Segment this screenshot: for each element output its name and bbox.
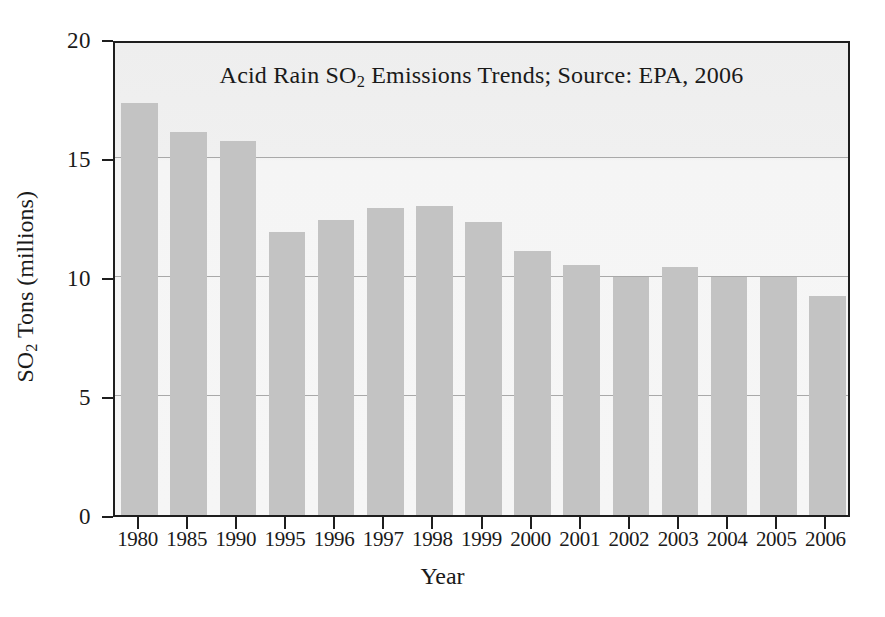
bar bbox=[662, 267, 699, 515]
bar bbox=[367, 208, 404, 515]
chart-title-subscript: 2 bbox=[357, 72, 365, 91]
y-tick-mark bbox=[102, 159, 113, 161]
x-axis-title: Year bbox=[0, 563, 885, 590]
chart-title-after: Emissions Trends; Source: EPA, 2006 bbox=[365, 62, 743, 88]
y-tick-label: 20 bbox=[13, 29, 91, 52]
bar bbox=[760, 277, 797, 515]
bar bbox=[613, 277, 650, 515]
y-axis-title-after: Tons (millions) bbox=[12, 191, 38, 344]
bar bbox=[416, 206, 453, 515]
bar bbox=[809, 296, 846, 515]
bar bbox=[514, 251, 551, 515]
bar bbox=[465, 222, 502, 515]
y-tick-mark bbox=[102, 397, 113, 399]
y-axis-title-before: SO bbox=[12, 352, 38, 383]
plot-area bbox=[113, 41, 850, 517]
bar bbox=[121, 103, 158, 515]
chart-title: Acid Rain SO2 Emissions Trends; Source: … bbox=[113, 62, 850, 92]
bar-series bbox=[115, 43, 848, 515]
bar bbox=[269, 232, 306, 515]
bar bbox=[220, 141, 257, 515]
y-tick-mark bbox=[102, 278, 113, 280]
bar bbox=[563, 265, 600, 515]
bar bbox=[318, 220, 355, 515]
bar bbox=[170, 132, 207, 515]
y-tick-mark bbox=[102, 40, 113, 42]
bar bbox=[711, 277, 748, 515]
y-tick-mark bbox=[102, 516, 113, 518]
y-axis-title: SO2 Tons (millions) bbox=[12, 52, 42, 522]
chart-title-before: Acid Rain SO bbox=[220, 62, 357, 88]
y-axis-title-subscript: 2 bbox=[22, 344, 41, 352]
x-tick-label: 2006 bbox=[795, 528, 855, 550]
chart-figure: Acid Rain SO2 Emissions Trends; Source: … bbox=[0, 0, 885, 617]
